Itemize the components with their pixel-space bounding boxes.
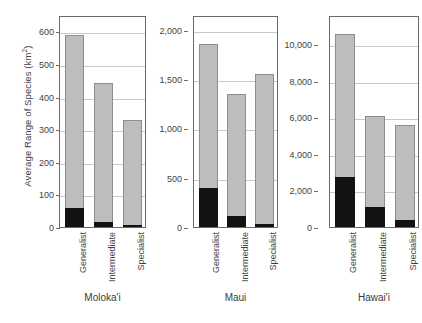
y-tick-mark	[184, 31, 188, 32]
bar-generalist[interactable]	[65, 35, 84, 227]
y-tick-label: 0	[49, 223, 54, 233]
x-tick-label-intermediate: Intermediate	[378, 232, 388, 282]
bar-segment-upper	[395, 125, 415, 227]
x-axis-labels: GeneralistIntermediateSpecialist	[329, 232, 419, 288]
bar-segment-upper	[123, 120, 142, 227]
bar-generalist[interactable]	[335, 34, 355, 227]
y-tick-label: 500	[167, 174, 182, 184]
chart-panel-hawaii: 02,0004,0006,0008,00010,000GeneralistInt…	[278, 0, 422, 323]
y-tick-label: 400	[39, 93, 54, 103]
y-tick-label: 4,000	[289, 150, 312, 160]
plot-area	[193, 16, 278, 228]
y-tick-mark	[314, 228, 318, 229]
y-tick-label: 10,000	[284, 40, 312, 50]
chart-panel-molokai: 0100200300400500600GeneralistIntermediat…	[20, 0, 148, 323]
x-axis-labels: GeneralistIntermediateSpecialist	[193, 232, 278, 288]
x-tick-label-specialist: Specialist	[408, 232, 418, 271]
bar-segment-upper	[65, 35, 84, 227]
bar-group	[194, 17, 277, 227]
bar-specialist[interactable]	[123, 120, 142, 227]
bar-segment-lower	[365, 207, 385, 227]
x-tick-label-specialist: Specialist	[136, 232, 146, 271]
y-tick-label: 8,000	[289, 77, 312, 87]
x-tick-label-generalist: Generalist	[211, 232, 221, 273]
bar-specialist[interactable]	[395, 125, 415, 227]
panel-container: 0100200300400500600GeneralistIntermediat…	[0, 0, 422, 323]
y-tick-label: 0	[177, 223, 182, 233]
chart-panel-maui: 05001,0001,5002,000GeneralistIntermediat…	[148, 0, 278, 323]
bar-generalist[interactable]	[199, 44, 218, 227]
bar-segment-upper	[227, 94, 246, 227]
bar-specialist[interactable]	[255, 74, 274, 227]
bar-intermediate[interactable]	[227, 94, 246, 227]
y-axis-ticks: 05001,0001,5002,000	[148, 16, 188, 228]
y-tick-mark	[56, 228, 60, 229]
y-tick-mark	[184, 179, 188, 180]
x-tick-label-specialist: Specialist	[268, 232, 278, 271]
bar-segment-upper	[94, 83, 113, 227]
y-tick-label: 1,000	[159, 124, 182, 134]
bar-intermediate[interactable]	[94, 83, 113, 227]
y-axis-ticks: 0100200300400500600	[20, 16, 60, 228]
bar-group	[60, 17, 145, 227]
bar-segment-lower	[94, 222, 113, 227]
bar-segment-lower	[227, 216, 246, 227]
plot-area	[59, 16, 146, 228]
panel-title: Hawai'i	[329, 292, 419, 303]
y-tick-mark	[184, 129, 188, 130]
x-axis-labels: GeneralistIntermediateSpecialist	[59, 232, 146, 288]
bar-group	[330, 17, 418, 227]
y-tick-mark	[184, 228, 188, 229]
x-tick-label-generalist: Generalist	[78, 232, 88, 273]
plot-area	[329, 16, 419, 228]
y-tick-label: 300	[39, 125, 54, 135]
y-tick-label: 2,000	[289, 186, 312, 196]
y-tick-label: 600	[39, 27, 54, 37]
bar-segment-lower	[199, 188, 218, 227]
y-tick-mark	[314, 155, 318, 156]
y-tick-label: 200	[39, 158, 54, 168]
bar-intermediate[interactable]	[365, 116, 385, 227]
y-axis-ticks: 02,0004,0006,0008,00010,000	[278, 16, 318, 228]
bar-segment-lower	[255, 224, 274, 227]
x-tick-label-generalist: Generalist	[348, 232, 358, 273]
y-tick-mark	[314, 82, 318, 83]
bar-segment-upper	[255, 74, 274, 227]
y-tick-label: 0	[307, 223, 312, 233]
y-tick-label: 500	[39, 60, 54, 70]
bar-segment-lower	[123, 225, 142, 227]
y-tick-mark	[314, 118, 318, 119]
y-tick-mark	[184, 80, 188, 81]
y-tick-label: 6,000	[289, 113, 312, 123]
panel-title: Moloka'i	[59, 292, 146, 303]
bar-segment-lower	[335, 177, 355, 227]
chart-figure: Average Range of Species (km2) 010020030…	[0, 0, 422, 323]
y-tick-mark	[314, 191, 318, 192]
bar-segment-lower	[395, 220, 415, 227]
y-tick-label: 1,500	[159, 75, 182, 85]
x-tick-label-intermediate: Intermediate	[240, 232, 250, 282]
y-tick-label: 2,000	[159, 26, 182, 36]
bar-segment-lower	[65, 208, 84, 227]
panel-title: Maui	[193, 292, 278, 303]
x-tick-label-intermediate: Intermediate	[107, 232, 117, 282]
y-tick-label: 100	[39, 190, 54, 200]
y-tick-mark	[314, 45, 318, 46]
